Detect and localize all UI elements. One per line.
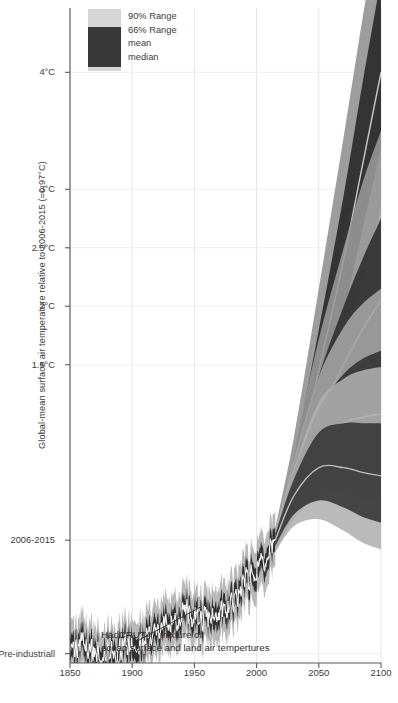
y-tick-label-5: 2006-2015 — [0, 535, 64, 545]
x-tick-label-0: 1850 — [59, 667, 80, 678]
legend-item-median: median — [128, 51, 177, 65]
x-tick-label-3: 2000 — [246, 667, 267, 678]
historical-90-range — [70, 512, 275, 692]
y-tick-label-3: 2°C — [0, 301, 64, 311]
y-tick-label-1: 3°C — [0, 184, 64, 194]
chart-legend: 90% Range 66% Range mean median — [88, 9, 177, 71]
hadcrut4-annotation-line1: HadCRUT4 - mixture of — [101, 629, 270, 642]
hadcrut4-annotation: HadCRUT4 - mixture of ocean surface and … — [101, 629, 270, 654]
legend-swatch-66-range — [88, 27, 121, 67]
legend-label-list: 90% Range 66% Range mean median — [128, 9, 177, 64]
y-tick-label-0: 4°C — [0, 67, 64, 77]
x-tick-label-2: 1950 — [184, 667, 205, 678]
y-tick-label-2: 2.5°C — [0, 243, 64, 253]
y-tick-label-4: 1.5°C — [0, 360, 64, 370]
x-tick-label-1: 1900 — [122, 667, 143, 678]
legend-item-mean: mean — [128, 37, 177, 51]
hadcrut4-annotation-line2: ocean surface and land air tempertures — [101, 642, 270, 655]
data-layer — [70, 0, 381, 692]
x-tick-label-4: 2050 — [308, 667, 329, 678]
x-axis-tick-labels: 185019001950200020502100 — [0, 667, 398, 687]
y-axis-tick-labels: 4°C3°C2.5°C2°C1.5°C2006-2015Pre-industri… — [0, 0, 64, 703]
climate-projection-figure: Global-mean surface air temperature rela… — [0, 0, 398, 703]
legend-swatch-ranges — [88, 9, 121, 71]
y-tick-label-6: Pre-industriall — [0, 649, 64, 659]
legend-item-66-range: 66% Range — [128, 24, 177, 38]
legend-item-90-range: 90% Range — [128, 10, 177, 24]
x-tick-label-5: 2100 — [370, 667, 391, 678]
